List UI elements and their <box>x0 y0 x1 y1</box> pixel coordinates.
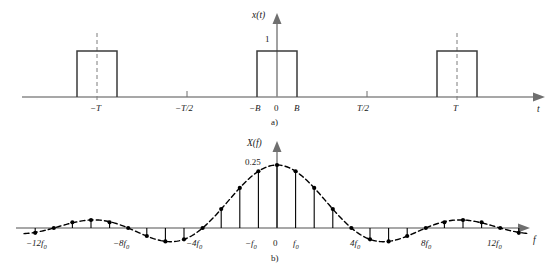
tick-label-neg-half-T: −T/2 <box>175 103 194 113</box>
panel-a-caption: a) <box>271 117 278 127</box>
time-axis-label: t <box>537 104 540 114</box>
spectral-line-dot <box>331 207 335 211</box>
magnitude-axis-arrowhead <box>273 141 282 152</box>
spectral-line-dot <box>498 226 502 230</box>
spectral-line-dot <box>238 186 242 190</box>
spectral-line-dot <box>108 220 112 224</box>
amplitude-axis-arrowhead <box>273 13 282 24</box>
spectral-line-dot <box>461 218 465 222</box>
figure-container: t x(t) 1 −T −T/2 −B 0 B T/2 T a) <box>0 0 553 266</box>
spectral-line-dot <box>145 234 149 238</box>
spectral-line-dot <box>275 163 279 167</box>
tick-label-pos8f0: 8f0 <box>421 238 432 250</box>
spectral-line-dot <box>70 220 74 224</box>
spectral-line-dot <box>480 220 484 224</box>
tick-label-negB: −B <box>249 103 261 113</box>
spectral-line-dot <box>424 226 428 230</box>
spectral-line-dot <box>294 169 298 173</box>
tick-label-pos12f0: 12f0 <box>487 238 503 250</box>
tick-label-pos-half-T: T/2 <box>357 103 370 113</box>
tick-label-neg4f0: −4f0 <box>186 238 203 250</box>
time-axis-arrowhead <box>533 93 545 102</box>
spectral-line-dot <box>349 226 353 230</box>
spectral-line-dot <box>201 226 205 230</box>
panel-b-spectrum: f X(f) 0.25 −12f0 −8f0 −4f0 −f0 0 f0 4f0… <box>0 128 553 266</box>
amplitude-value-label: 1 <box>265 34 270 44</box>
tick-label-posB: B <box>294 103 300 113</box>
spectral-line-dot <box>256 169 260 173</box>
tick-label-posT: T <box>453 103 459 113</box>
frequency-tick-labels: −12f0 −8f0 −4f0 −f0 0 f0 4f0 8f0 12f0 <box>26 238 503 250</box>
spectral-line-dot <box>368 237 372 241</box>
tick-label-origin-b: 0 <box>273 238 278 248</box>
panel-b-caption: b) <box>271 253 279 263</box>
tick-label-negT: −T <box>90 103 102 113</box>
magnitude-axis-label: X(f) <box>246 138 262 149</box>
spectral-line-dot <box>52 226 56 230</box>
spectral-line-dot <box>442 220 446 224</box>
spectrum-stems-group <box>35 165 519 241</box>
tick-label-pos4f0: 4f0 <box>350 238 361 250</box>
spectral-line-dot <box>517 231 521 235</box>
panel-a-pulse-train: t x(t) 1 −T −T/2 −B 0 B T/2 T a) <box>0 0 553 128</box>
tick-label-neg8f0: −8f0 <box>113 238 130 250</box>
spectral-line-dot <box>126 226 130 230</box>
spectral-line-dot <box>89 218 93 222</box>
tick-label-neg12f0: −12f0 <box>26 238 48 250</box>
tick-label-negf0: −f0 <box>245 238 258 250</box>
amplitude-axis-label: x(t) <box>251 10 265 21</box>
peak-value-label: 0.25 <box>245 157 261 167</box>
spectral-line-dot <box>33 231 37 235</box>
frequency-axis-label: f <box>533 235 537 245</box>
spectral-line-dot <box>163 239 167 243</box>
spectral-line-dot <box>312 186 316 190</box>
tick-label-origin: 0 <box>274 103 279 113</box>
spectral-line-dot <box>219 207 223 211</box>
tick-label-posf0: f0 <box>293 238 300 250</box>
spectral-line-dot <box>387 239 391 243</box>
spectral-line-dot <box>405 234 409 238</box>
